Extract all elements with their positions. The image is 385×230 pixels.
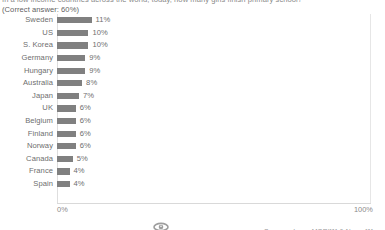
- x-axis-line: [57, 203, 371, 204]
- bar-row: UK6%: [0, 102, 385, 115]
- eye-icon: [152, 219, 170, 230]
- x-axis-ticks: 0% 100%: [0, 205, 385, 217]
- question-correct-answer: (Correct answer: 60%): [2, 5, 383, 15]
- bar-track: 10%: [57, 27, 371, 40]
- bar-category-label: S. Korea: [0, 41, 53, 49]
- bar-row: Belgium6%: [0, 115, 385, 128]
- bar-row: Spain4%: [0, 178, 385, 191]
- sources-note: Sources: Ipsos MORI[1] & Novus[1]: [264, 227, 373, 230]
- bar-track: 11%: [57, 14, 371, 27]
- bar: [57, 131, 76, 137]
- question-block: In a low income countries across the wor…: [2, 0, 383, 14]
- bar-row: Japan7%: [0, 90, 385, 103]
- bar-category-label: Japan: [0, 92, 53, 100]
- bar-track: 4%: [57, 165, 371, 178]
- bar-row: Sweden11%: [0, 14, 385, 27]
- bar-value-label: 6%: [80, 130, 91, 138]
- bar-track: 10%: [57, 39, 371, 52]
- bar-value-label: 6%: [80, 104, 91, 112]
- bar-row: US10%: [0, 27, 385, 40]
- bar: [57, 118, 76, 124]
- bar-category-label: UK: [0, 104, 53, 112]
- bar-track: 5%: [57, 153, 371, 166]
- bar: [57, 93, 79, 99]
- bar-category-label: France: [0, 167, 53, 175]
- bar: [57, 143, 76, 149]
- bar-track: 9%: [57, 52, 371, 65]
- bar-category-label: Finland: [0, 130, 53, 138]
- bar-row: Norway6%: [0, 140, 385, 153]
- bar-track: 6%: [57, 127, 371, 140]
- bar-value-label: 7%: [83, 92, 94, 100]
- bar: [57, 17, 92, 23]
- bar-track: 6%: [57, 102, 371, 115]
- bar-category-label: Canada: [0, 155, 53, 163]
- bar-category-label: Australia: [0, 79, 53, 87]
- bar-row: Germany9%: [0, 52, 385, 65]
- bar-track: 6%: [57, 115, 371, 128]
- bar-value-label: 9%: [89, 67, 100, 75]
- bar: [57, 55, 85, 61]
- bar-value-label: 10%: [92, 41, 107, 49]
- bar-value-label: 10%: [92, 29, 107, 37]
- bar-row: Finland6%: [0, 127, 385, 140]
- bar-chart: Sweden11%US10%S. Korea10%Germany9%Hungar…: [0, 14, 385, 230]
- bar-category-label: Belgium: [0, 117, 53, 125]
- bar-row: Australia8%: [0, 77, 385, 90]
- bar-track: 4%: [57, 178, 371, 191]
- bar-value-label: 9%: [89, 54, 100, 62]
- bar-value-label: 6%: [80, 117, 91, 125]
- bar: [57, 30, 88, 36]
- bar-row: S. Korea10%: [0, 39, 385, 52]
- bar: [57, 80, 82, 86]
- bar: [57, 156, 73, 162]
- bar-track: 6%: [57, 140, 371, 153]
- bar: [57, 181, 70, 187]
- bar-track: 8%: [57, 77, 371, 90]
- bar-value-label: 5%: [77, 155, 88, 163]
- bar-category-label: Germany: [0, 54, 53, 62]
- bar-row: Hungary9%: [0, 64, 385, 77]
- bar-value-label: 8%: [86, 79, 97, 87]
- bar-value-label: 4%: [74, 167, 85, 175]
- bar-category-label: Norway: [0, 142, 53, 150]
- bar-value-label: 6%: [80, 142, 91, 150]
- bar-rows: Sweden11%US10%S. Korea10%Germany9%Hungar…: [0, 14, 385, 190]
- bar: [57, 42, 88, 48]
- bar-row: France4%: [0, 165, 385, 178]
- bar: [57, 168, 70, 174]
- bar-value-label: 11%: [96, 16, 111, 24]
- bar-category-label: Spain: [0, 180, 53, 188]
- bar-value-label: 4%: [74, 180, 85, 188]
- bar-track: 9%: [57, 64, 371, 77]
- bar: [57, 68, 85, 74]
- x-tick-max: 100%: [354, 205, 373, 214]
- bar-category-label: Hungary: [0, 67, 53, 75]
- bar-row: Canada5%: [0, 153, 385, 166]
- bar-category-label: US: [0, 29, 53, 37]
- bar-category-label: Sweden: [0, 16, 53, 24]
- x-tick-min: 0%: [57, 205, 68, 214]
- bar: [57, 105, 76, 111]
- bar-track: 7%: [57, 90, 371, 103]
